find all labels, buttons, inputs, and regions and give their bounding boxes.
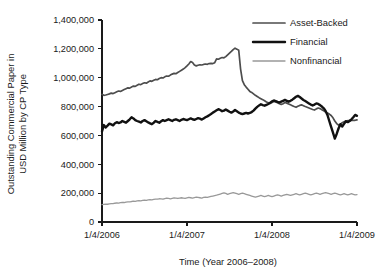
y-tick-label: 0 — [89, 217, 94, 227]
x-tick-label: 1/4/2008 — [254, 230, 290, 240]
y-tick-label: 200,000 — [61, 188, 94, 198]
y-tick-label: 600,000 — [61, 131, 94, 141]
y-axis-title-line2: USD Million by CP Type — [17, 74, 28, 174]
legend-label-nonfinancial: Nonfinancial — [290, 55, 342, 66]
chart-figure: 0200,000400,000600,000800,0001,000,0001,… — [0, 0, 385, 273]
y-axis-title: Outstanding Commercial Paper in USD Mill… — [5, 54, 28, 195]
legend-label-asset-backed: Asset-Backed — [290, 17, 348, 28]
x-tick-label: 1/4/2006 — [84, 230, 120, 240]
legend-label-financial: Financial — [290, 36, 328, 47]
y-axis-title-line1: Outstanding Commercial Paper in — [5, 54, 16, 195]
chart-canvas: 0200,000400,000600,000800,0001,000,0001,… — [0, 0, 385, 273]
y-tick-label: 1,000,000 — [53, 73, 94, 83]
x-axis-title: Time (Year 2006–2008) — [179, 256, 277, 267]
x-tick-label: 1/4/2009 — [339, 230, 375, 240]
x-tick-label: 1/4/2007 — [169, 230, 205, 240]
y-tick-label: 1,400,000 — [53, 15, 94, 25]
y-tick-label: 1,200,000 — [53, 44, 94, 54]
y-tick-label: 800,000 — [61, 102, 94, 112]
y-tick-label: 400,000 — [61, 160, 94, 170]
